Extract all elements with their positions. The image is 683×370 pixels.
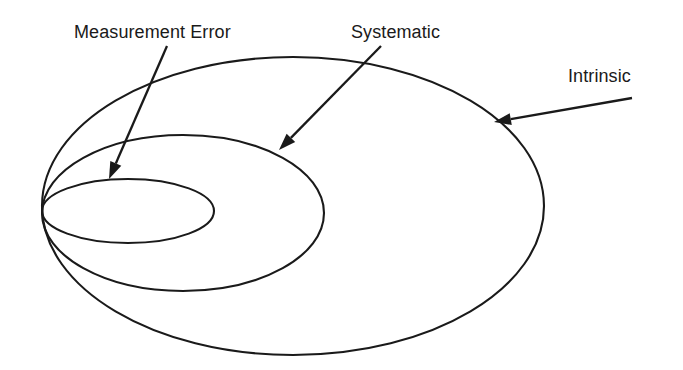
callout-intrinsic: Intrinsic (494, 66, 632, 125)
region-outline-intrinsic (42, 57, 544, 355)
label-intrinsic: Intrinsic (568, 66, 631, 86)
leader-line-measurement-error (116, 46, 167, 163)
callout-systematic: Systematic (279, 22, 440, 150)
diagram-canvas: Measurement Error Systematic Intrinsic (0, 0, 683, 370)
region-outline-systematic (42, 135, 324, 291)
region-outline-measurement-error (42, 179, 214, 243)
label-measurement-error: Measurement Error (74, 22, 231, 42)
leader-line-intrinsic (511, 98, 632, 119)
label-systematic: Systematic (351, 22, 440, 42)
arrowhead-measurement-error (109, 161, 121, 179)
nested-ellipse-diagram: Measurement Error Systematic Intrinsic (0, 0, 683, 370)
callout-measurement-error: Measurement Error (74, 22, 231, 179)
